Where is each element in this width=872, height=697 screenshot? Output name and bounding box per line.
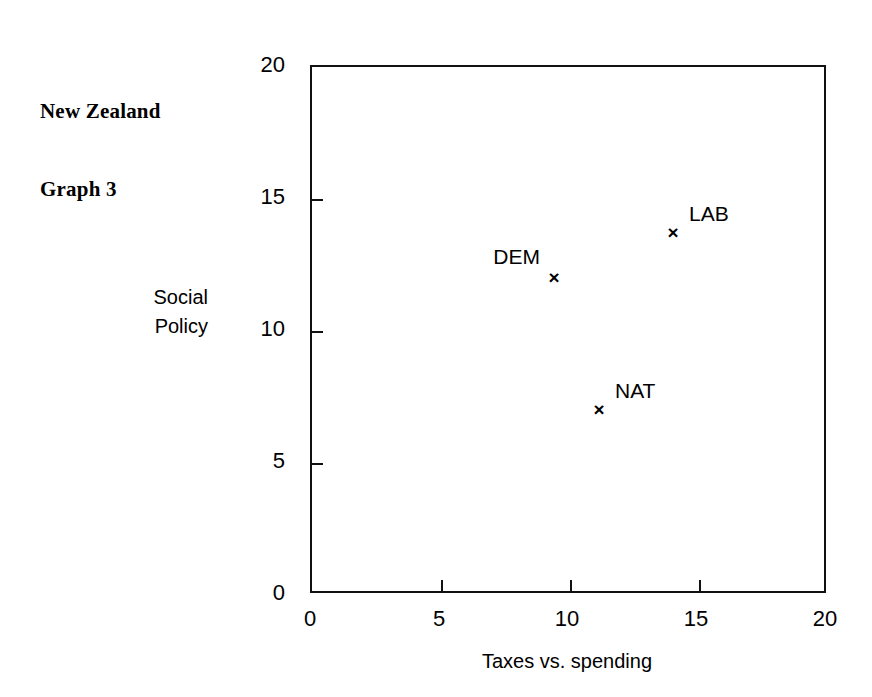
y-axis-title-line-1: Social [60, 283, 208, 312]
x-tick-label-0: 0 [275, 608, 345, 630]
x-tick-label-10: 10 [532, 608, 602, 630]
chart-title: New Zealand Graph 3 [40, 46, 161, 254]
marker-x-icon: × [592, 399, 606, 421]
x-tick-mark-5 [441, 580, 443, 591]
x-tick-mark-15 [699, 580, 701, 591]
y-tick-label-15: 15 [225, 186, 285, 208]
y-tick-label-0: 0 [225, 582, 285, 604]
x-axis-title: Taxes vs. spending [367, 650, 767, 673]
x-tick-mark-10 [570, 580, 572, 591]
data-point-label-nat: NAT [615, 380, 655, 401]
data-point-label-lab: LAB [689, 203, 729, 224]
marker-x-icon: × [666, 222, 680, 244]
y-tick-mark-5 [312, 463, 323, 465]
y-axis-title: Social Policy [60, 283, 208, 341]
x-tick-label-15: 15 [661, 608, 731, 630]
y-tick-mark-10 [312, 331, 323, 333]
y-tick-label-5: 5 [225, 450, 285, 472]
x-tick-label-20: 20 [790, 608, 860, 630]
plot-area: × LAB × DEM × NAT [310, 65, 826, 593]
y-tick-mark-15 [312, 199, 323, 201]
x-tick-label-5: 5 [404, 608, 474, 630]
y-tick-label-10: 10 [225, 318, 285, 340]
chart-title-line-1: New Zealand [40, 98, 161, 124]
y-tick-label-20: 20 [225, 54, 285, 76]
data-point-label-dem: DEM [493, 246, 540, 267]
chart-title-line-2: Graph 3 [40, 176, 161, 202]
marker-x-icon: × [547, 267, 561, 289]
chart-figure: New Zealand Graph 3 Social Policy Taxes … [0, 0, 872, 697]
y-axis-title-line-2: Policy [60, 312, 208, 341]
